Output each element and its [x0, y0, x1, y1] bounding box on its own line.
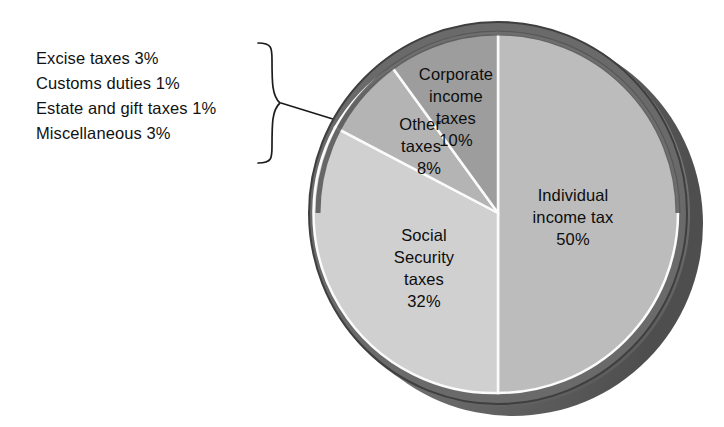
slice-label-line-1: Social [365, 224, 483, 246]
slice-label-line-3: taxes [398, 107, 514, 129]
curly-brace-icon [258, 43, 280, 163]
slice-label-line-1: Corporate [398, 63, 514, 85]
slice-label-line-2: Security [365, 246, 483, 268]
annotation-item-miscellaneous: Miscellaneous 3% [36, 121, 266, 146]
slice-label-value: 10% [398, 129, 514, 151]
slice-label-line-3: taxes [365, 268, 483, 290]
pie-chart-figure: Excise taxes 3% Customs duties 1% Estate… [0, 0, 724, 427]
slice-label-social-security-taxes: Social Security taxes 32% [365, 224, 483, 312]
other-taxes-breakdown-annotation: Excise taxes 3% Customs duties 1% Estate… [36, 46, 266, 146]
annotation-item-customs-duties: Customs duties 1% [36, 71, 266, 96]
slice-label-individual-income-tax: Individual income tax 50% [508, 184, 638, 250]
slice-label-line-1: Individual [508, 184, 638, 206]
annotation-item-estate-and-gift-taxes: Estate and gift taxes 1% [36, 96, 266, 121]
annotation-item-excise-taxes: Excise taxes 3% [36, 46, 266, 71]
slice-label-value: 32% [365, 290, 483, 312]
slice-label-line-2: income tax [508, 206, 638, 228]
slice-label-value: 50% [508, 228, 638, 250]
slice-label-corporate-income-taxes: Corporate income taxes 10% [398, 63, 514, 151]
slice-label-line-2: income [398, 85, 514, 107]
slice-label-value: 8% [355, 157, 441, 179]
